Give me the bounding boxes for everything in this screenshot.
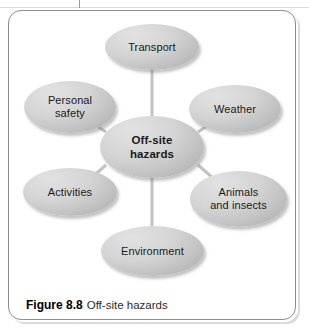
node-animals-insects-line1: Animals <box>219 186 259 198</box>
node-personal-safety-line2: safety <box>55 107 85 119</box>
node-off-site-hazards-line1: Off-site <box>131 134 172 146</box>
node-off-site-hazards-label: Off-site hazards <box>128 133 176 161</box>
scan-artifact-line <box>0 7 309 8</box>
scan-artifact-tick <box>79 0 80 8</box>
node-weather-label: Weather <box>212 103 258 116</box>
node-weather[interactable]: Weather <box>189 85 281 133</box>
node-activities[interactable]: Activities <box>23 168 117 216</box>
node-animals-insects[interactable]: Animals and insects <box>190 171 287 227</box>
node-personal-safety[interactable]: Personal safety <box>24 81 116 133</box>
node-environment[interactable]: Environment <box>101 226 204 276</box>
node-animals-insects-line2: and insects <box>210 199 267 211</box>
node-activities-line1: Activities <box>48 186 92 198</box>
node-personal-safety-line1: Personal <box>48 94 92 106</box>
node-personal-safety-label: Personal safety <box>46 94 94 120</box>
node-transport-line1: Transport <box>128 41 176 53</box>
node-weather-line1: Weather <box>214 103 256 115</box>
node-animals-insects-label: Animals and insects <box>208 186 269 212</box>
figure-caption-label: Figure 8.8 <box>26 298 83 312</box>
mind-map-diagram: Transport Personal safety Weather Off-si… <box>8 10 296 290</box>
node-off-site-hazards-line2: hazards <box>130 148 174 160</box>
node-off-site-hazards[interactable]: Off-site hazards <box>100 116 204 178</box>
node-transport[interactable]: Transport <box>105 24 199 70</box>
node-transport-label: Transport <box>126 41 178 54</box>
figure-caption-text: Off-site hazards <box>87 299 168 311</box>
node-environment-label: Environment <box>119 245 186 258</box>
node-environment-line1: Environment <box>121 245 184 257</box>
figure-caption: Figure 8.8Off-site hazards <box>26 298 168 312</box>
node-activities-label: Activities <box>46 186 94 199</box>
